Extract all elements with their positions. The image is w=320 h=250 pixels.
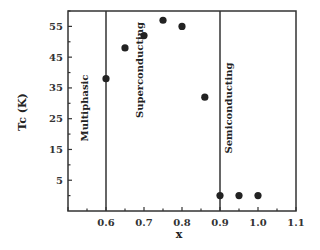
x-tick-label: 1.0	[249, 217, 266, 228]
data-point	[159, 17, 166, 24]
y-tick-label: 35	[49, 82, 63, 93]
chart: 0.60.70.80.91.01.1 51525354555 Multiphas…	[0, 0, 320, 250]
data-point	[216, 192, 223, 199]
y-axis-label: Tc (K)	[16, 93, 29, 130]
y-tick-label: 55	[49, 21, 63, 32]
region-label: Multiphasic	[79, 75, 90, 142]
x-axis-label: x	[176, 228, 183, 241]
y-tick-label: 15	[49, 144, 63, 155]
x-tick-label: 0.9	[211, 217, 228, 228]
data-point	[254, 192, 261, 199]
plot-frame	[68, 11, 296, 211]
x-tick-label: 1.1	[287, 217, 304, 228]
region-label: Semiconducting	[223, 62, 234, 153]
data-point	[121, 44, 128, 51]
x-axis-ticks: 0.60.70.80.91.01.1	[68, 207, 305, 228]
phase-boundaries	[106, 11, 220, 211]
region-label: Superconducting	[134, 22, 145, 118]
data-points	[102, 17, 261, 200]
data-point	[201, 94, 208, 101]
x-tick-label: 0.8	[173, 217, 190, 228]
data-point	[178, 23, 185, 30]
y-tick-label: 45	[49, 52, 63, 63]
y-tick-label: 25	[49, 113, 63, 124]
x-tick-label: 0.7	[135, 217, 152, 228]
y-tick-label: 5	[56, 175, 63, 186]
x-tick-label: 0.6	[97, 217, 114, 228]
data-point	[235, 192, 242, 199]
region-labels: MultiphasicSuperconductingSemiconducting	[79, 22, 234, 154]
data-point	[102, 75, 109, 82]
